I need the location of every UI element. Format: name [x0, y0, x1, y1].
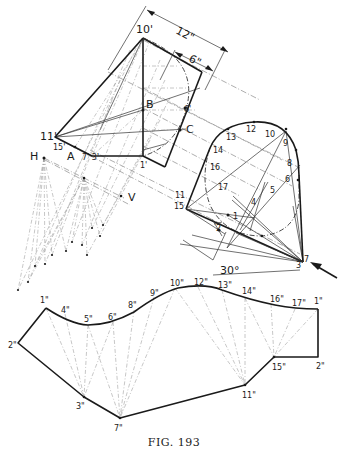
dev-label-10: 10" — [170, 279, 184, 288]
label-6: 6 — [285, 175, 290, 184]
label-5: 5 — [270, 186, 275, 195]
label-10: 10 — [265, 130, 275, 139]
label-9: 9 — [283, 139, 288, 148]
label-16: 16 — [210, 163, 220, 172]
angle-label: 30° — [220, 264, 240, 277]
dev-label-3: 3" — [76, 402, 85, 411]
dev-label-14: 14" — [242, 287, 256, 296]
fan-points — [17, 224, 104, 291]
dev-label-11: 11" — [242, 391, 256, 400]
label-15-prime: 15' — [53, 143, 65, 152]
label-V: V — [128, 191, 136, 204]
transition-piece-development-diagram: 12" 6" 10' 11' 15' A 7' 3' 1' B C 6' H V — [0, 0, 348, 453]
label-A: A — [67, 150, 75, 163]
dev-label-2-right: 2" — [316, 362, 325, 371]
dev-label-7: 7" — [114, 424, 123, 433]
label-7-3-prime: 7' 3' — [82, 153, 99, 162]
dev-label-4: 4" — [61, 306, 70, 315]
label-11: 11 — [175, 191, 185, 200]
label-1-prime: 1' — [140, 161, 147, 170]
label-7: 7 — [304, 255, 309, 264]
label-8: 8 — [287, 159, 292, 168]
label-15: 15 — [174, 202, 184, 211]
label-10-prime: 10' — [136, 23, 153, 36]
dev-label-1-right: 1" — [314, 297, 323, 306]
label-6-prime: 6' — [184, 105, 191, 114]
dev-label-1-left: 1" — [40, 296, 49, 305]
dimension-6-label: 6" — [187, 52, 204, 69]
label-2: 2 — [216, 224, 221, 233]
label-3: 3 — [296, 261, 301, 270]
label-17: 17 — [218, 183, 228, 192]
label-11-prime: 11' — [40, 130, 57, 143]
dev-label-8: 8" — [128, 301, 137, 310]
dev-label-2-left: 2" — [8, 341, 17, 350]
dev-label-6: 6" — [108, 313, 117, 322]
label-B: B — [146, 98, 154, 111]
view-direction-arrow — [310, 262, 337, 278]
dev-label-5: 5" — [84, 315, 93, 324]
label-H: H — [30, 150, 38, 163]
dev-label-17: 17" — [292, 299, 306, 308]
dev-label-16: 16" — [270, 295, 284, 304]
dimension-12-label: 12" — [174, 24, 197, 44]
label-C: C — [186, 123, 194, 136]
label-12: 12 — [246, 125, 256, 134]
figure-caption: FIG. 193 — [148, 436, 200, 449]
dev-label-12: 12" — [194, 278, 208, 287]
label-13: 13 — [226, 133, 236, 142]
label-1: 1 — [233, 212, 238, 221]
dev-label-9: 9" — [150, 289, 159, 298]
dev-label-15: 15" — [272, 363, 286, 372]
dev-label-13: 13" — [218, 281, 232, 290]
label-4: 4 — [251, 198, 256, 207]
label-14: 14 — [213, 146, 223, 155]
